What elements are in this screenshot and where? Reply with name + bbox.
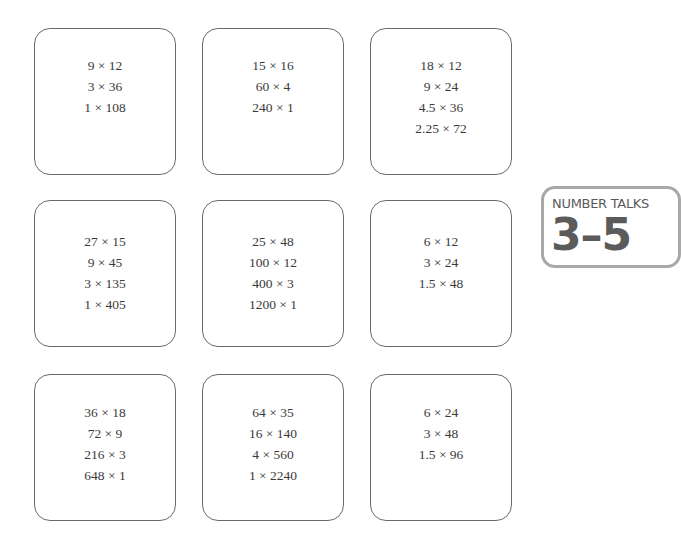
- problem-line: 2.25 × 72: [371, 118, 511, 139]
- problem-line: 1 × 405: [35, 294, 175, 315]
- problem-line: 72 × 9: [35, 423, 175, 444]
- problem-card-8: 64 × 35 16 × 140 4 × 560 1 × 2240: [202, 374, 344, 521]
- problem-card-5: 25 × 48 100 × 12 400 × 3 1200 × 1: [202, 200, 344, 347]
- problem-line: 3 × 48: [371, 423, 511, 444]
- problem-string: 18 × 12 9 × 24 4.5 × 36 2.25 × 72: [371, 55, 511, 139]
- problem-line: 1200 × 1: [203, 294, 343, 315]
- problem-string: 6 × 12 3 × 24 1.5 × 48: [371, 231, 511, 294]
- problem-card-7: 36 × 18 72 × 9 216 × 3 648 × 1: [34, 374, 176, 521]
- problem-line: 216 × 3: [35, 444, 175, 465]
- problem-line: 9 × 24: [371, 76, 511, 97]
- problem-line: 1.5 × 48: [371, 273, 511, 294]
- problem-line: 25 × 48: [203, 231, 343, 252]
- problem-line: 36 × 18: [35, 402, 175, 423]
- problem-line: 648 × 1: [35, 465, 175, 486]
- number-talks-badge: NUMBER TALKS 3–5: [541, 186, 681, 268]
- problem-card-6: 6 × 12 3 × 24 1.5 × 48: [370, 200, 512, 347]
- problem-string: 6 × 24 3 × 48 1.5 × 96: [371, 402, 511, 465]
- problem-line: 1 × 2240: [203, 465, 343, 486]
- problem-string: 9 × 12 3 × 36 1 × 108: [35, 55, 175, 118]
- problem-line: 240 × 1: [203, 97, 343, 118]
- problem-line: 15 × 16: [203, 55, 343, 76]
- problem-string: 25 × 48 100 × 12 400 × 3 1200 × 1: [203, 231, 343, 315]
- problem-card-9: 6 × 24 3 × 48 1.5 × 96: [370, 374, 512, 521]
- problem-string: 27 × 15 9 × 45 3 × 135 1 × 405: [35, 231, 175, 315]
- problem-string: 64 × 35 16 × 140 4 × 560 1 × 2240: [203, 402, 343, 486]
- problem-line: 3 × 135: [35, 273, 175, 294]
- problem-line: 6 × 24: [371, 402, 511, 423]
- problem-line: 400 × 3: [203, 273, 343, 294]
- problem-line: 4.5 × 36: [371, 97, 511, 118]
- problem-string: 36 × 18 72 × 9 216 × 3 648 × 1: [35, 402, 175, 486]
- problem-line: 6 × 12: [371, 231, 511, 252]
- problem-card-1: 9 × 12 3 × 36 1 × 108: [34, 28, 176, 175]
- problem-line: 16 × 140: [203, 423, 343, 444]
- problem-line: 64 × 35: [203, 402, 343, 423]
- problem-line: 60 × 4: [203, 76, 343, 97]
- problem-string: 15 × 16 60 × 4 240 × 1: [203, 55, 343, 118]
- problem-line: 9 × 45: [35, 252, 175, 273]
- problem-line: 9 × 12: [35, 55, 175, 76]
- problem-line: 100 × 12: [203, 252, 343, 273]
- problem-line: 3 × 36: [35, 76, 175, 97]
- problem-line: 27 × 15: [35, 231, 175, 252]
- problem-line: 1.5 × 96: [371, 444, 511, 465]
- problem-card-3: 18 × 12 9 × 24 4.5 × 36 2.25 × 72: [370, 28, 512, 175]
- problem-line: 1 × 108: [35, 97, 175, 118]
- grade-range: 3–5: [551, 209, 631, 260]
- problem-card-2: 15 × 16 60 × 4 240 × 1: [202, 28, 344, 175]
- problem-line: 4 × 560: [203, 444, 343, 465]
- problem-line: 3 × 24: [371, 252, 511, 273]
- problem-card-4: 27 × 15 9 × 45 3 × 135 1 × 405: [34, 200, 176, 347]
- problem-line: 18 × 12: [371, 55, 511, 76]
